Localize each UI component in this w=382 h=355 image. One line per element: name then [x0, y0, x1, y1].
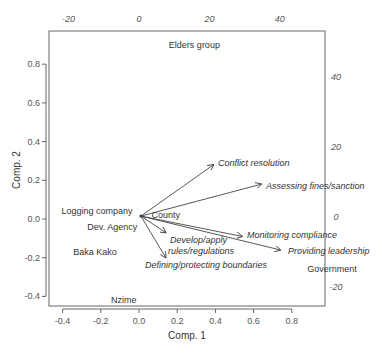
loading-arrow: [141, 216, 166, 258]
y-axis-label: Comp. 2: [11, 151, 22, 189]
loading-label: Monitoring compliance: [247, 230, 337, 240]
loading-label: Providing leadership: [288, 246, 370, 256]
right-tick-label: 40: [331, 72, 341, 82]
y-tick-label: 0.4: [27, 137, 40, 147]
x-tick-label: 0.0: [133, 316, 146, 326]
top-tick-label: -20: [62, 14, 75, 24]
x-tick-label: -0.4: [55, 316, 71, 326]
observation-label: Government: [307, 264, 357, 274]
observation-label: Nzime: [111, 295, 137, 305]
top-tick-label: 20: [203, 14, 214, 24]
y-tick-label: 0.2: [27, 175, 40, 185]
loading-label: Assessing fines/sanction: [265, 181, 365, 191]
x-tick-label: -0.2: [93, 316, 109, 326]
observation-label: County: [151, 210, 180, 220]
observation-label: Baka Kako: [73, 247, 117, 257]
y-tick-label: -0.4: [24, 291, 40, 301]
right-tick-label: 0: [333, 212, 338, 222]
y-tick-label: 0.0: [27, 214, 40, 224]
top-tick-label: 40: [275, 14, 285, 24]
right-tick-label: -20: [329, 282, 342, 292]
x-axis-label: Comp. 1: [168, 330, 206, 341]
y-tick-label: -0.2: [24, 253, 40, 263]
loading-arrow: [141, 165, 214, 216]
x-tick-label: 0.4: [209, 316, 222, 326]
loading-label: Conflict resolution: [218, 158, 290, 168]
observation-label: Elders group: [169, 40, 220, 50]
x-tick-label: 0.6: [247, 316, 260, 326]
x-axis-top: -2002040: [62, 14, 285, 24]
biplot-chart: -0.4-0.20.00.20.40.60.8 0.80.60.40.20.0-…: [0, 0, 382, 355]
right-tick-label: 20: [330, 142, 341, 152]
loading-label: Develop/applyrules/regulations: [168, 235, 235, 256]
x-axis-bottom: -0.4-0.20.00.20.40.60.8: [55, 309, 298, 326]
y-tick-label: 0.6: [27, 98, 40, 108]
loading-label: Defining/protecting boundaries: [145, 260, 268, 270]
y-axis-left: 0.80.60.40.20.0-0.2-0.4: [24, 59, 46, 301]
top-tick-label: 0: [136, 14, 141, 24]
observation-label: Logging company: [61, 206, 133, 216]
y-tick-label: 0.8: [27, 59, 40, 69]
x-tick-label: 0.8: [286, 316, 299, 326]
observation-label: Dev. Agency: [87, 222, 137, 232]
x-tick-label: 0.2: [171, 316, 184, 326]
